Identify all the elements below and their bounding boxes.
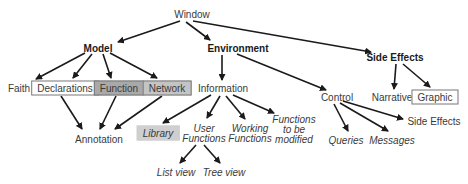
node-functions-modified-line3: modified [275, 134, 313, 145]
node-declarations: Declarations [31, 81, 99, 96]
hierarchy-diagram: Window Model Environment Side Effects Fa… [0, 0, 468, 184]
node-control: Control [321, 92, 353, 103]
node-tree-view: Tree view [203, 167, 246, 178]
node-library: Library [137, 126, 180, 141]
node-network: Network [143, 81, 192, 96]
node-side-effects: Side Effects [366, 52, 423, 63]
node-control-side-effects: Side Effects [407, 116, 460, 127]
node-environment: Environment [207, 43, 268, 54]
node-narrative: Narrative [372, 92, 413, 103]
node-information: Information [198, 83, 248, 94]
node-user-functions-line2: Functions [182, 133, 225, 144]
node-working-functions-line2: Functions [228, 133, 271, 144]
node-list-view: List view [157, 167, 195, 178]
node-annotation: Annotation [75, 134, 123, 145]
node-faith: Faith [8, 83, 30, 94]
node-window: Window [174, 9, 210, 20]
node-graphic: Graphic [411, 90, 458, 105]
node-queries: Queries [328, 135, 363, 146]
node-model: Model [84, 43, 113, 54]
node-function: Function [94, 81, 144, 96]
node-messages: Messages [369, 135, 415, 146]
